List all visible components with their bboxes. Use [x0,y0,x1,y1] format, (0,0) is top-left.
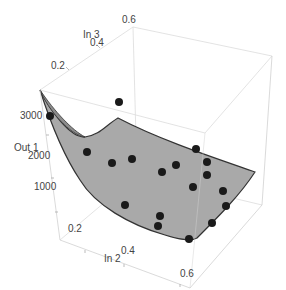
data-point [192,145,200,153]
z-tick-label: 2000 [28,151,50,161]
y-tick-label: 0.4 [90,38,104,48]
data-point [189,183,197,191]
data-point [128,155,136,163]
x-tick-label: 0.6 [180,269,194,279]
data-point [83,148,91,156]
data-point [203,171,211,179]
data-point [222,202,230,210]
data-point [108,159,116,167]
z-tick-label: 3000 [20,111,42,121]
data-point [46,112,54,120]
data-point [208,219,216,227]
z-tick-label: 1000 [34,182,56,192]
data-point [203,158,211,166]
x-tick-label: 0.2 [68,224,82,234]
data-point [172,161,180,169]
y-tick-label: 0.2 [51,61,65,71]
data-point [185,235,193,243]
data-point [115,98,123,106]
data-point [156,212,164,220]
data-point [154,222,162,230]
x-axis-title: In 2 [104,254,121,264]
data-point [158,168,166,176]
data-point [121,201,129,209]
x-tick-label: 0.4 [121,246,135,256]
plot-canvas [0,0,286,290]
y-tick-label: 0.6 [122,15,136,25]
data-point [219,187,227,195]
